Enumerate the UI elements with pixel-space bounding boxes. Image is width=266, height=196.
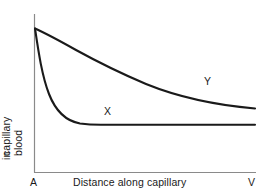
y-axis-label-line-2: capillary blood <box>0 117 24 156</box>
series-line-x <box>35 29 255 125</box>
chart-figure: Concentration in capillary blood Distanc… <box>0 0 266 196</box>
curve-label-x: X <box>104 106 111 117</box>
x-axis-label: Distance along capillary <box>73 177 186 188</box>
series-line-y <box>35 29 255 109</box>
x-axis-tick-arterial: A <box>30 177 37 188</box>
x-axis-tick-venous: V <box>248 177 255 188</box>
curve-label-y: Y <box>204 76 211 87</box>
y-axis-label: Concentration in capillary blood <box>0 38 34 160</box>
chart-plot-area <box>0 0 266 196</box>
